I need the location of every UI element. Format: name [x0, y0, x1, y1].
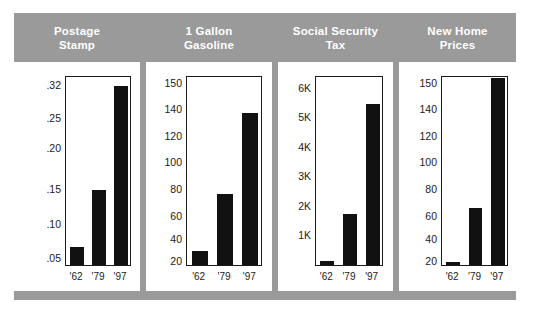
y-axis-tick-label: 150: [399, 77, 437, 89]
y-axis-tick-label: 140: [399, 103, 437, 115]
chart-panel: 6K5K4K3K2K1K'62'79'97: [278, 62, 393, 291]
plot-area: 6K5K4K3K2K1K'62'79'97: [278, 62, 393, 291]
x-axis-tick-label: '79: [338, 271, 361, 282]
x-axis-tick-label: '62: [315, 271, 338, 282]
y-axis-tick-label: 60: [399, 210, 437, 222]
bar: [469, 208, 483, 265]
y-axis-tick-label: 140: [146, 103, 182, 115]
y-axis-tick-label: 100: [146, 156, 182, 168]
chart-panel: 15014012010080604020'62'79'97: [146, 62, 272, 291]
panel-container: .32.25.20.15.10.05'62'79'971501401201008…: [14, 62, 516, 300]
bar: [114, 86, 128, 265]
y-axis-tick-label: 80: [399, 183, 437, 195]
panel-title-line1: Postage: [14, 24, 140, 39]
y-axis-tick-label: .32: [14, 79, 61, 91]
y-axis-tick-label: .20: [14, 142, 61, 154]
panel-title: 1 GallonGasoline: [146, 15, 272, 61]
x-axis-tick-label: '97: [486, 271, 508, 282]
plot-box: [65, 76, 131, 266]
y-axis-tick-label: 40: [146, 233, 182, 245]
bar: [320, 261, 334, 265]
plot-area: 15014012010080604020'62'79'97: [146, 62, 272, 291]
panel-title: New HomePrices: [399, 15, 516, 61]
y-axis-tick-label: 150: [146, 77, 182, 89]
y-axis-tick-label: 2K: [278, 200, 311, 212]
x-axis-tick-label: '97: [109, 271, 131, 282]
y-axis-tick-label: .25: [14, 112, 61, 124]
panel-title-line2: Gasoline: [146, 38, 272, 53]
plot-box: [441, 76, 508, 266]
bar: [242, 113, 258, 265]
y-axis-tick-label: 20: [399, 255, 437, 267]
x-axis-tick-label: '62: [186, 271, 211, 282]
y-axis-tick-label: 4K: [278, 141, 311, 153]
x-axis-tick-label: '79: [463, 271, 485, 282]
x-axis-tick-label: '62: [441, 271, 463, 282]
bar: [446, 262, 460, 265]
panel-title-line1: New Home: [399, 24, 516, 39]
y-axis-tick-label: 40: [399, 233, 437, 245]
panel-title-line1: Social Security: [278, 24, 393, 39]
y-axis-tick-label: 6K: [278, 82, 311, 94]
x-axis-tick-label: '62: [65, 271, 87, 282]
panel-title-line2: Stamp: [14, 38, 140, 53]
y-axis-tick-label: .05: [14, 252, 61, 264]
figure-root: .32.25.20.15.10.05'62'79'971501401201008…: [0, 0, 538, 315]
y-axis-tick-label: 60: [146, 210, 182, 222]
y-axis-tick-label: 100: [399, 156, 437, 168]
x-axis-tick-label: '79: [87, 271, 109, 282]
bar: [217, 194, 233, 265]
panel-title-line2: Tax: [278, 38, 393, 53]
panel-title-line1: 1 Gallon: [146, 24, 272, 39]
bar: [366, 104, 380, 265]
chart-panel: 15014012010080604020'62'79'97: [399, 62, 516, 291]
y-axis-tick-label: 1K: [278, 229, 311, 241]
panel-title: PostageStamp: [14, 15, 140, 61]
plot-area: .32.25.20.15.10.05'62'79'97: [14, 62, 140, 291]
panel-title: Social SecurityTax: [278, 15, 393, 61]
bar: [343, 214, 357, 265]
bar: [92, 190, 106, 265]
y-axis-tick-label: 3K: [278, 170, 311, 182]
y-axis-tick-label: 120: [146, 130, 182, 142]
y-axis-tick-label: .10: [14, 218, 61, 230]
bar: [70, 247, 84, 265]
y-axis-tick-label: .15: [14, 183, 61, 195]
x-axis-tick-label: '79: [211, 271, 236, 282]
y-axis-tick-label: 20: [146, 255, 182, 267]
x-axis-tick-label: '97: [360, 271, 383, 282]
y-axis-tick-label: 120: [399, 130, 437, 142]
plot-area: 15014012010080604020'62'79'97: [399, 62, 516, 291]
x-axis-tick-label: '97: [237, 271, 262, 282]
y-axis-tick-label: 80: [146, 183, 182, 195]
plot-box: [186, 76, 262, 266]
y-axis-tick-label: 5K: [278, 111, 311, 123]
chart-panel: .32.25.20.15.10.05'62'79'97: [14, 62, 140, 291]
bar: [192, 251, 208, 265]
plot-box: [315, 76, 383, 266]
panel-title-line2: Prices: [399, 38, 516, 53]
bar: [491, 78, 505, 265]
